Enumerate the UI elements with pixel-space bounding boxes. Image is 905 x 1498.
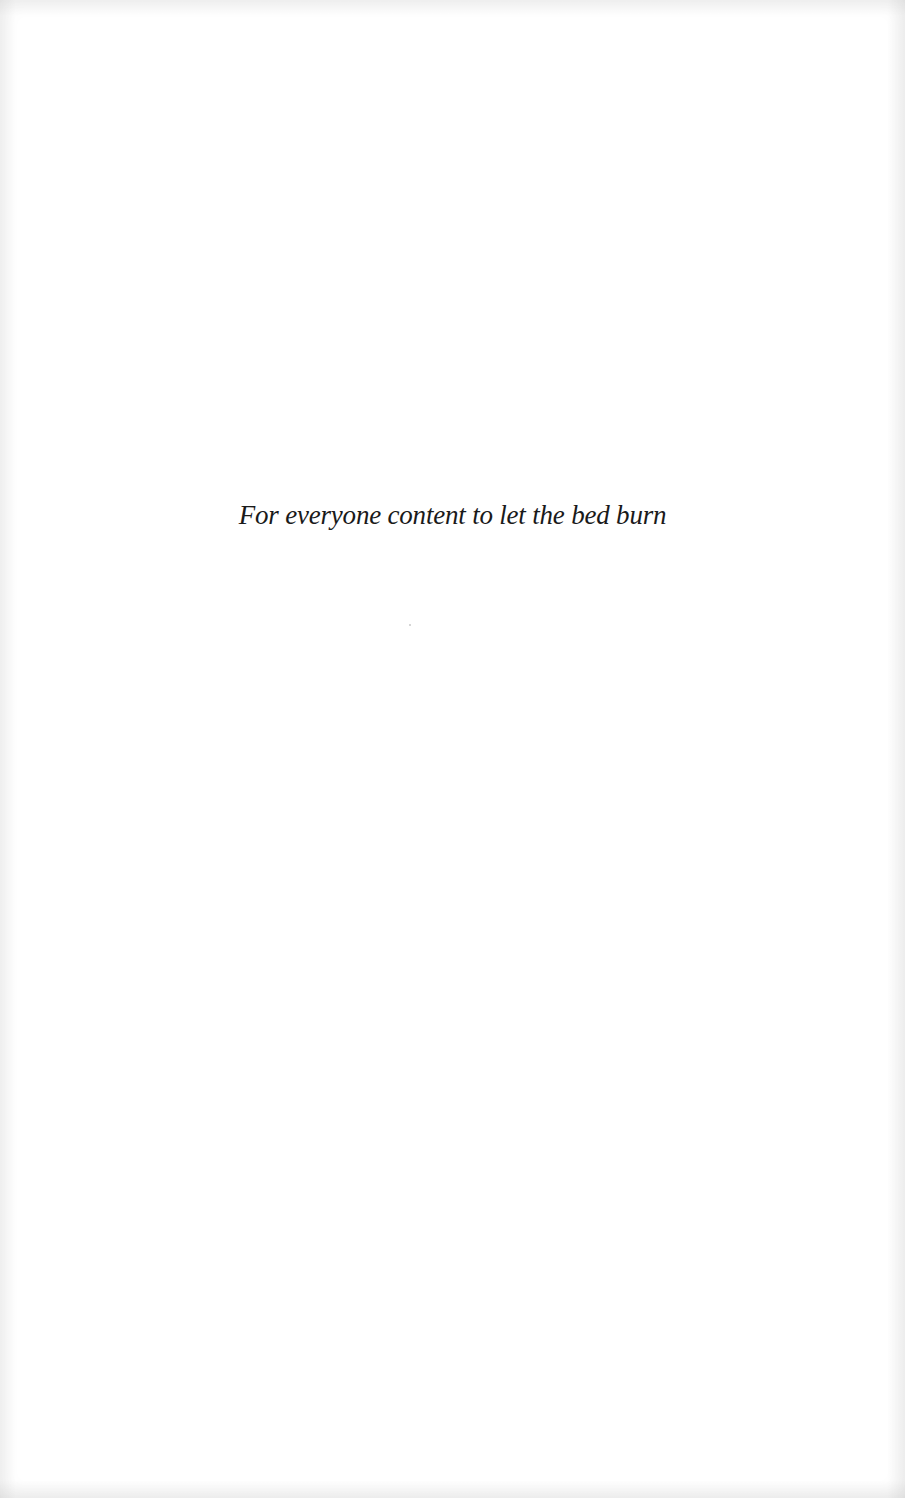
scan-edge-bottom [0,1480,905,1498]
book-page: For everyone content to let the bed burn [0,0,905,1498]
scan-edge-right [887,0,905,1498]
scan-edge-top [0,0,905,16]
scan-edge-left [0,0,16,1498]
dedication-text: For everyone content to let the bed burn [0,497,905,533]
scan-speck [409,624,411,626]
